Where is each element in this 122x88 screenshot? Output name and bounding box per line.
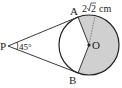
label-b: B: [69, 74, 76, 86]
label-p: P: [0, 40, 6, 52]
tangent-circle-diagram: A B P O 45° 2 2 cm: [0, 0, 122, 88]
label-a: A: [70, 5, 78, 17]
label-o: O: [92, 39, 100, 51]
radius-unit: cm: [99, 3, 111, 14]
label-angle-45: 45°: [19, 42, 32, 52]
radius-coefficient: 2: [82, 3, 87, 14]
angle-arc-p: [17, 42, 18, 50]
radius-radicand: 2: [91, 3, 96, 14]
center-dot: [87, 43, 90, 46]
radius-length-label: 2 2 cm: [82, 3, 111, 14]
